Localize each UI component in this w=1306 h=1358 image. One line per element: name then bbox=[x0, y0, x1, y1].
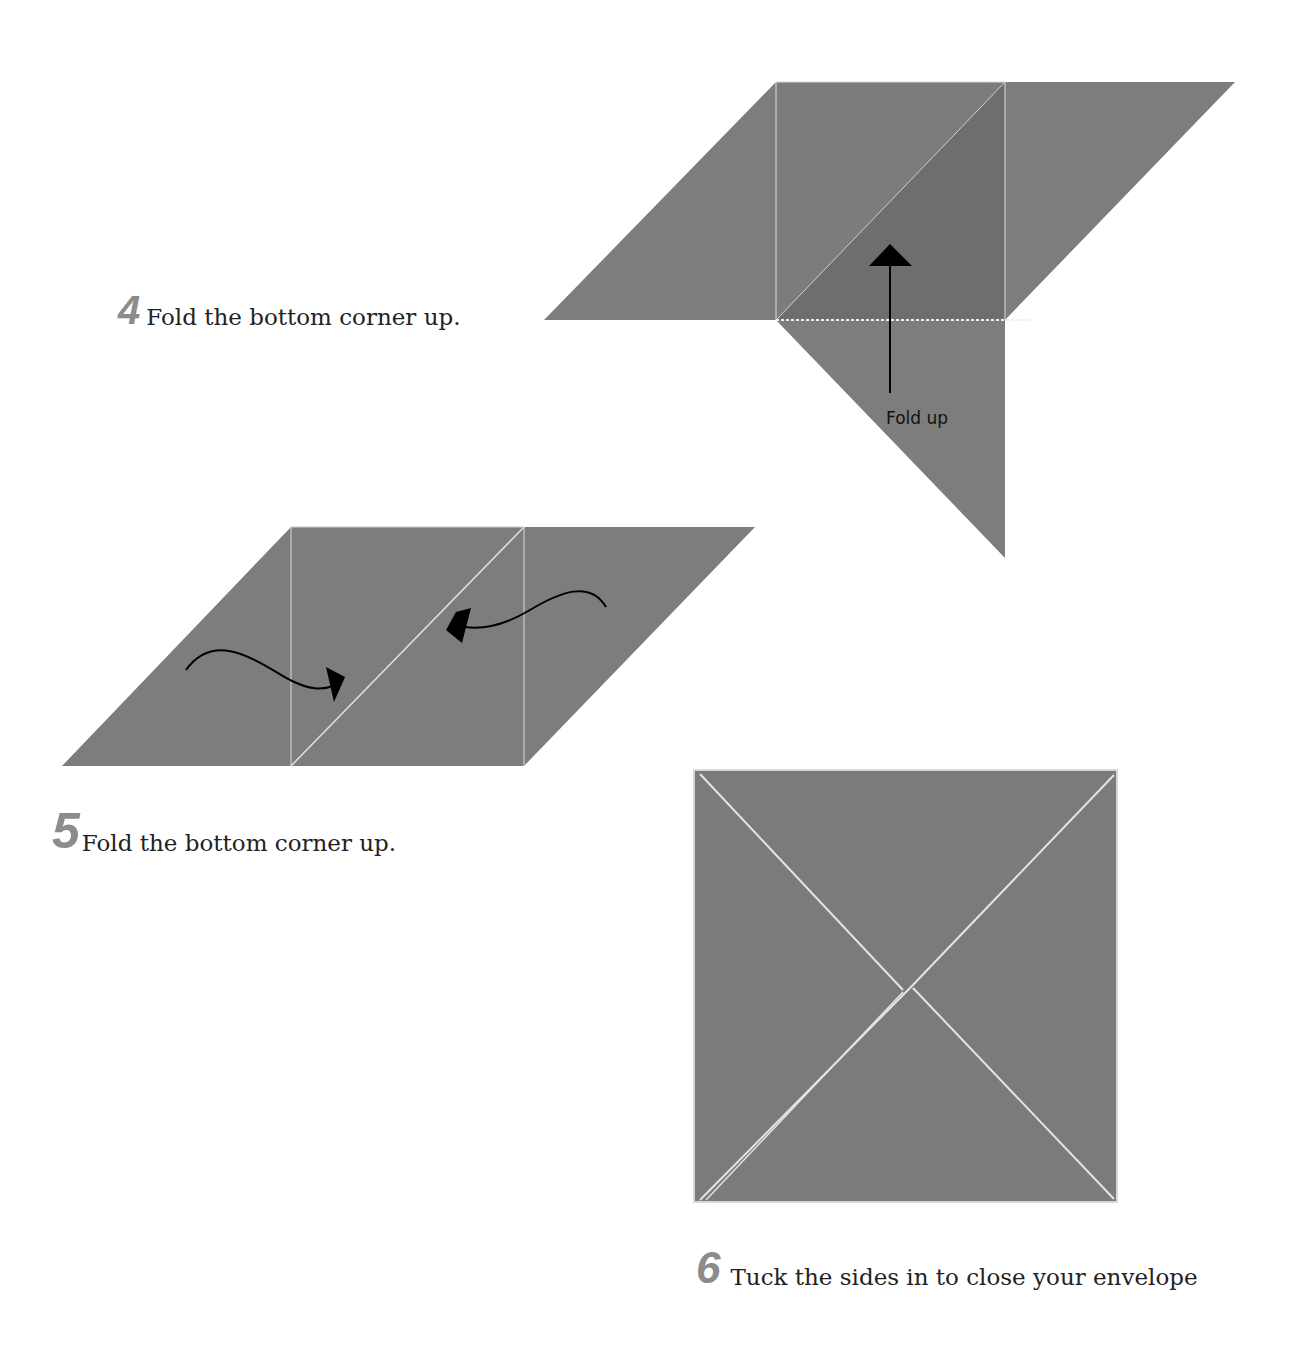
step-4-number: 4 bbox=[118, 290, 140, 330]
diagrams-layer bbox=[0, 0, 1306, 1358]
step-5-text: Fold the bottom corner up. bbox=[82, 831, 396, 856]
step-6-diagram bbox=[694, 770, 1117, 1202]
step-4-text: Fold the bottom corner up. bbox=[146, 305, 460, 330]
step-6-caption: 6 Tuck the sides in to close your envelo… bbox=[696, 1246, 1198, 1290]
step-4-diagram bbox=[544, 82, 1235, 558]
step-6-text: Tuck the sides in to close your envelope bbox=[730, 1265, 1197, 1290]
step-4-caption: 4 Fold the bottom corner up. bbox=[118, 290, 461, 330]
step-5-diagram bbox=[62, 527, 755, 766]
step-5-number: 5 bbox=[52, 806, 80, 856]
step-5-caption: 5 Fold the bottom corner up. bbox=[52, 806, 396, 856]
fold-up-label: Fold up bbox=[886, 408, 948, 428]
step-6-number: 6 bbox=[696, 1246, 720, 1290]
instructions-page: Fold up 4 Fold the bottom corner up. 5 F… bbox=[0, 0, 1306, 1358]
